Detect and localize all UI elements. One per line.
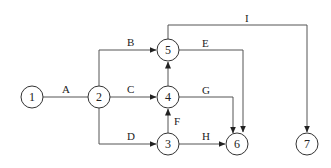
svg-text:4: 4 — [165, 90, 171, 104]
node-4: 4 — [157, 86, 179, 108]
svg-text:C: C — [127, 83, 134, 95]
node-3: 3 — [157, 133, 179, 155]
node-6: 6 — [226, 133, 248, 155]
edge-G: G — [179, 84, 233, 133]
edge-I: I — [168, 12, 307, 132]
node-1: 1 — [21, 86, 43, 108]
svg-text:2: 2 — [96, 90, 102, 104]
svg-text:E: E — [202, 37, 209, 49]
edge-C: C — [110, 83, 156, 97]
svg-text:B: B — [127, 36, 134, 48]
edge-B: B — [99, 36, 156, 86]
svg-text:F: F — [174, 115, 180, 127]
node-7: 7 — [296, 133, 318, 155]
svg-text:1: 1 — [29, 90, 35, 104]
node-2: 2 — [88, 86, 110, 108]
edge-H: H — [179, 130, 225, 144]
svg-text:6: 6 — [234, 137, 240, 151]
node-5: 5 — [157, 39, 179, 61]
edge-F: F — [168, 109, 180, 133]
edge-D: D — [99, 108, 156, 144]
svg-text:5: 5 — [165, 43, 171, 57]
svg-text:3: 3 — [165, 137, 171, 151]
svg-text:D: D — [127, 130, 135, 142]
svg-text:G: G — [202, 84, 210, 96]
svg-text:I: I — [245, 12, 249, 24]
svg-text:7: 7 — [304, 137, 310, 151]
svg-text:H: H — [202, 130, 210, 142]
edge-A: A — [43, 83, 88, 97]
network-diagram: A B C D E F G H I 1 2 — [0, 0, 331, 168]
svg-text:A: A — [62, 83, 70, 95]
